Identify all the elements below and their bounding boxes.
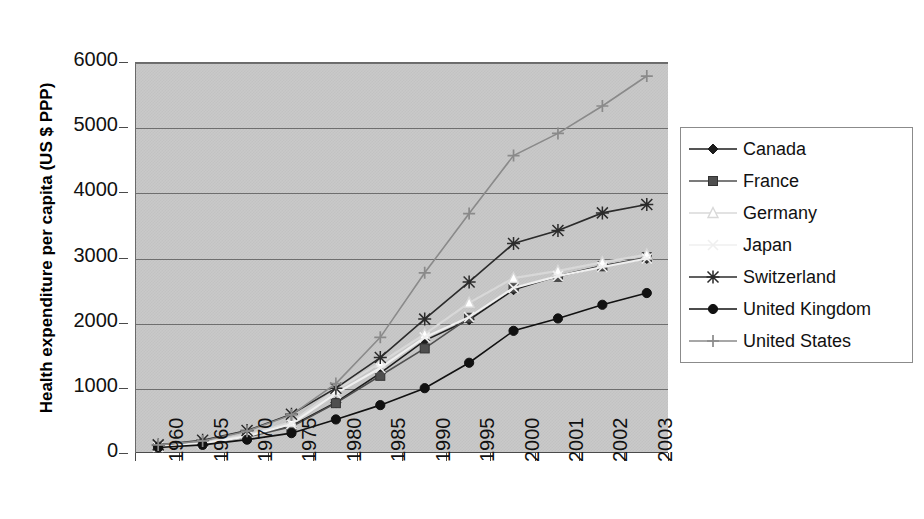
data-point-circle: [465, 358, 474, 367]
x-tick-label: 1975: [298, 402, 321, 462]
data-point-circle: [553, 314, 562, 323]
series-canvas: [136, 63, 669, 454]
y-axis-tick-labels: 0100020003000400050006000: [34, 0, 128, 519]
data-point-circle: [509, 326, 518, 335]
data-point-square: [709, 177, 718, 186]
x-tick-label: 1965: [210, 402, 233, 462]
x-tick-label: 2002: [609, 402, 632, 462]
data-point-asterisk: [463, 275, 476, 288]
legend-label: Canada: [743, 139, 806, 160]
series-line: [158, 76, 647, 445]
y-tick-mark: [119, 453, 128, 454]
data-point-triangle-open: [464, 297, 474, 307]
data-point-circle: [420, 384, 429, 393]
data-point-diamond: [708, 144, 718, 154]
legend-key-plus: [687, 332, 739, 350]
y-tick-label: 1000: [34, 375, 118, 395]
y-tick-mark: [119, 323, 128, 324]
legend-key-circle: [687, 300, 739, 318]
data-point-plus: [707, 335, 719, 347]
data-point-plus: [419, 267, 431, 279]
series-united-states: [152, 70, 653, 451]
data-point-circle: [708, 304, 717, 313]
data-point-asterisk: [418, 313, 431, 326]
y-tick-label: 5000: [34, 114, 118, 134]
x-tick-label: 1985: [387, 402, 410, 462]
data-point-asterisk: [507, 237, 520, 250]
data-point-circle: [642, 288, 651, 297]
data-point-asterisk: [707, 271, 720, 284]
y-tick-mark: [119, 258, 128, 259]
y-tick-mark: [119, 127, 128, 128]
y-tick-mark: [119, 388, 128, 389]
x-axis-tick-labels: 1960196519701975198019851990199520002001…: [135, 462, 668, 519]
legend-key-diamond: [687, 140, 739, 158]
chart-figure: Health expenditure per capita (US $ PPP)…: [0, 0, 924, 519]
data-point-asterisk: [640, 198, 653, 211]
data-point-asterisk: [374, 351, 387, 364]
legend-label: United States: [743, 331, 851, 352]
x-tick-label: 1980: [343, 402, 366, 462]
data-point-circle: [598, 300, 607, 309]
legend-label: Switzerland: [743, 267, 836, 288]
legend-item-united-kingdom[interactable]: United Kingdom: [681, 293, 912, 325]
x-tick-label: 2001: [565, 402, 588, 462]
legend-key-x-light: [687, 236, 739, 254]
y-tick-mark: [119, 192, 128, 193]
x-tick-label: 1960: [165, 402, 188, 462]
data-point-plus: [641, 70, 653, 82]
y-tick-label: 0: [34, 440, 118, 460]
data-point-square: [420, 344, 429, 353]
legend-item-canada[interactable]: Canada: [681, 133, 912, 165]
x-tick-label: 2000: [521, 402, 544, 462]
legend-item-japan[interactable]: Japan: [681, 229, 912, 261]
legend-key-triangle-open: [687, 204, 739, 222]
data-point-square: [376, 371, 385, 380]
legend: CanadaFranceGermanyJapanSwitzerlandUnite…: [680, 127, 913, 363]
legend-key-asterisk: [687, 268, 739, 286]
legend-key-square: [687, 172, 739, 190]
y-tick-label: 2000: [34, 310, 118, 330]
x-tick-label: 1970: [254, 402, 277, 462]
legend-label: France: [743, 171, 799, 192]
y-tick-label: 3000: [34, 245, 118, 265]
legend-label: Japan: [743, 235, 792, 256]
legend-item-france[interactable]: France: [681, 165, 912, 197]
legend-label: Germany: [743, 203, 817, 224]
data-point-circle: [287, 429, 296, 438]
legend-item-united-states[interactable]: United States: [681, 325, 912, 357]
legend-item-switzerland[interactable]: Switzerland: [681, 261, 912, 293]
data-point-asterisk: [596, 206, 609, 219]
legend-label: United Kingdom: [743, 299, 871, 320]
x-tick-label: 2003: [654, 402, 677, 462]
y-tick-label: 4000: [34, 179, 118, 199]
plot-area: [135, 62, 668, 453]
data-point-circle: [331, 415, 340, 424]
data-point-plus: [552, 127, 564, 139]
data-point-asterisk: [551, 224, 564, 237]
y-tick-label: 6000: [34, 49, 118, 69]
data-point-circle: [376, 401, 385, 410]
legend-item-germany[interactable]: Germany: [681, 197, 912, 229]
x-tick-mark: [135, 453, 136, 461]
x-tick-label: 1995: [476, 402, 499, 462]
y-tick-mark: [119, 62, 128, 63]
data-point-plus: [596, 100, 608, 112]
data-point-square: [331, 399, 340, 408]
x-tick-label: 1990: [432, 402, 455, 462]
